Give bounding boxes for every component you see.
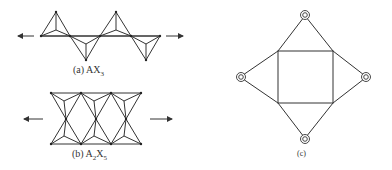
panel-c-square [237, 11, 371, 144]
caption-a: (a) AX3 [73, 64, 104, 78]
apex-right-marker-icon [362, 73, 371, 82]
caption-c: (c) [297, 149, 306, 158]
panel-b-double-chain [24, 92, 172, 145]
figure: (a) AX3 (b) A2X5 (c) [0, 0, 392, 170]
panel-a-chain [18, 11, 183, 61]
caption-b: (b) A2X5 [72, 148, 107, 162]
apex-left-marker-icon [237, 73, 246, 82]
diagram-canvas [0, 0, 392, 170]
apex-top-marker-icon [301, 11, 310, 20]
apex-bottom-marker-icon [301, 135, 310, 144]
